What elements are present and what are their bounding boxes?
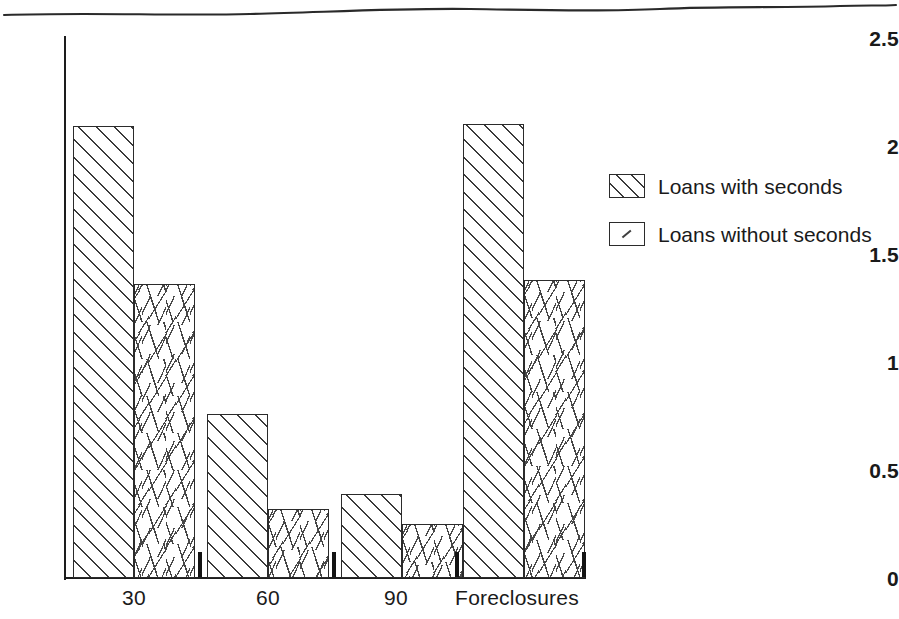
- y-tick-label-0-5: 0.5: [843, 460, 899, 481]
- bar-30-without-seconds: [134, 284, 195, 578]
- y-tick-label-0: 0: [843, 568, 899, 589]
- bar-90-with-seconds: [341, 494, 402, 578]
- x-tick-label-30: 30: [122, 586, 146, 609]
- x-tick-mark-4: [582, 552, 586, 577]
- bar-chart: 2.5 2 1.5 1 0.5 0 30 60 90 Foreclosures: [0, 0, 899, 619]
- y-tick-label-2: 2: [843, 136, 899, 157]
- bar-30-with-seconds: [73, 126, 134, 578]
- dash-swatch-icon: [609, 222, 645, 246]
- chart-legend: Loans with seconds Loans without seconds: [609, 167, 872, 263]
- y-tick-label-1: 1: [843, 352, 899, 373]
- x-tick-label-60: 60: [256, 586, 280, 609]
- x-tick-mark-1: [198, 552, 202, 577]
- plot-area: 2.5 2 1.5 1 0.5 0 30 60 90 Foreclosures: [0, 0, 899, 619]
- x-tick-mark-2: [332, 552, 336, 577]
- bar-90-without-seconds: [402, 524, 463, 578]
- bar-60-with-seconds: [207, 414, 268, 578]
- y-axis-line: [64, 36, 66, 580]
- x-tick-label-foreclosures: Foreclosures: [455, 586, 579, 609]
- legend-item-loans-with-seconds: Loans with seconds: [609, 167, 872, 205]
- legend-label-loans-with-seconds: Loans with seconds: [658, 176, 842, 197]
- legend-label-loans-without-seconds: Loans without seconds: [658, 224, 872, 245]
- bar-60-without-seconds: [268, 509, 329, 578]
- hatch-swatch-icon: [609, 174, 645, 198]
- bar-foreclosures-with-seconds: [463, 124, 524, 578]
- y-tick-label-2-5: 2.5: [843, 28, 899, 49]
- bar-foreclosures-without-seconds: [524, 280, 585, 578]
- x-tick-mark-3: [455, 552, 459, 577]
- x-tick-label-90: 90: [384, 586, 408, 609]
- legend-item-loans-without-seconds: Loans without seconds: [609, 215, 872, 253]
